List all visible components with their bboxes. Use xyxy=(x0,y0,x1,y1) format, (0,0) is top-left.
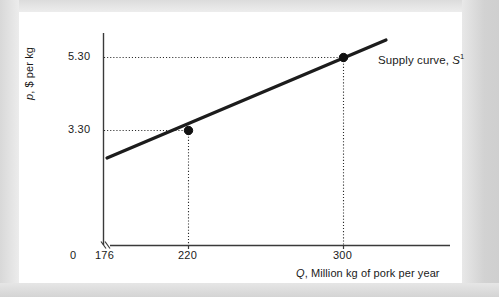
supply-curve-label-text: Supply curve, xyxy=(378,54,452,66)
x-tick-label-300: 300 xyxy=(333,250,352,261)
supply-curve-symbol: S xyxy=(452,54,460,66)
y-tick-label-upper: 5.30 xyxy=(68,51,90,62)
supply-curve-label: Supply curve, S1 xyxy=(378,53,464,66)
y-axis-label-rest: , $ per kg xyxy=(23,47,35,94)
x-axis-label-rest: , Million kg of pork per year xyxy=(305,267,440,279)
y-tick-label-lower: 3.30 xyxy=(68,124,90,135)
data-point-marker-300 xyxy=(339,53,347,61)
y-axis-symbol: p xyxy=(23,94,35,100)
data-point-marker-220 xyxy=(184,126,192,134)
figure-screenshot: p, $ per kg 5.30 3.30 0 176 220 300 Q, M… xyxy=(0,0,499,297)
x-tick-label-break: 176 xyxy=(95,250,114,261)
x-tick-label-220: 220 xyxy=(178,250,197,261)
y-axis-label: p, $ per kg xyxy=(24,26,35,122)
x-axis-label: Q, Million kg of pork per year xyxy=(296,268,440,279)
x-axis-symbol: Q xyxy=(296,267,305,279)
supply-curve-superscript: 1 xyxy=(460,52,464,61)
x-tick-label-zero: 0 xyxy=(70,250,76,261)
